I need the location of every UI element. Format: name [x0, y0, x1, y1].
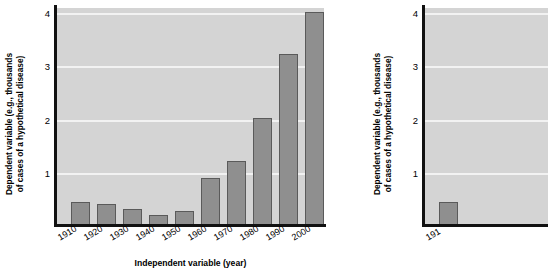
y-axis-title-line-2: of cases of a hypothetical disease): [15, 12, 26, 236]
y-tick-label-4: 4: [402, 8, 418, 19]
bar-2000: [305, 12, 324, 225]
bar-1920: [97, 204, 116, 225]
y-tick-label-2: 2: [402, 115, 418, 126]
bar-chart-primary: Dependent variable (e.g., thousands of c…: [0, 0, 340, 275]
bar-1980: [253, 118, 272, 225]
y-axis-title-line-1: Dependent variable (e.g., thousands: [4, 12, 15, 236]
y-axis-title-line-1: Dependent variable (e.g., thousands: [372, 12, 383, 236]
plot-area-primary: [57, 8, 324, 225]
bar-1970: [227, 161, 246, 225]
bar-chart-secondary: Dependent variable (e.g., thousands of c…: [368, 0, 548, 275]
bars-layer-secondary: [425, 8, 548, 225]
y-axis-title-secondary: Dependent variable (e.g., thousands of c…: [372, 12, 393, 236]
x-axis-line-secondary: [422, 224, 548, 227]
bar-1990: [279, 54, 298, 225]
bar-1910: [71, 202, 90, 225]
y-tick-label-3: 3: [34, 61, 50, 72]
x-tick-label-1910: 191: [424, 226, 442, 242]
y-tick-label-3: 3: [402, 61, 418, 72]
y-axis-title-line-2: of cases of a hypothetical disease): [383, 12, 394, 236]
bar-1950: [175, 211, 194, 225]
y-axis-title-primary: Dependent variable (e.g., thousands of c…: [4, 12, 25, 236]
bars-layer-primary: [57, 8, 324, 225]
bar-1960: [201, 178, 220, 225]
y-axis-line-primary: [54, 5, 57, 226]
y-tick-label-1: 1: [402, 168, 418, 179]
y-axis-line-secondary: [422, 5, 425, 226]
y-tick-label-1: 1: [34, 168, 50, 179]
y-tick-label-2: 2: [34, 115, 50, 126]
plot-area-secondary: [425, 8, 548, 225]
bar-1930: [123, 209, 142, 225]
y-tick-label-4: 4: [34, 8, 50, 19]
x-axis-title-primary: Independent variable (year): [57, 258, 324, 268]
bar-1910: [439, 202, 458, 225]
